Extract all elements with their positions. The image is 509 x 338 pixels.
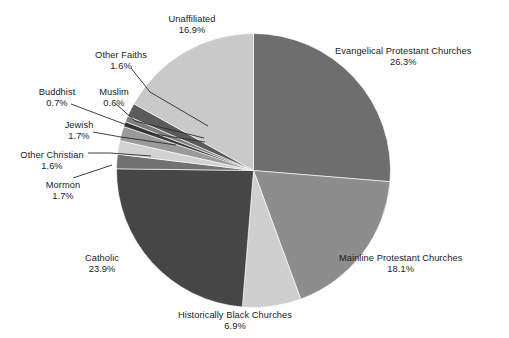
slice-label-mormon: Mormon 1.7% — [46, 180, 80, 203]
slice-label-percent-other-faiths: 1.6% — [95, 61, 147, 72]
slice-label-jewish: Jewish 1.7% — [65, 120, 94, 143]
slice-label-percent-jewish: 1.7% — [65, 131, 94, 142]
slice-label-other-faiths: Other Faiths 1.6% — [95, 50, 147, 73]
slice-label-percent-mormon: 1.7% — [46, 191, 80, 202]
slice-label-buddhist: Buddhist 0.7% — [39, 87, 76, 110]
slice-label-name-evangelical-protestant-churches: Evangelical Protestant Churches — [335, 46, 471, 57]
slice-label-percent-muslim: 0.6% — [99, 98, 129, 109]
slice-label-percent-buddhist: 0.7% — [39, 98, 76, 109]
slice-label-mainline-protestant-churches: Mainline Protestant Churches 18.1% — [339, 253, 462, 276]
slice-label-name-historically-black-churches: Historically Black Churches — [178, 310, 292, 321]
slice-label-percent-other-christian: 1.6% — [20, 161, 83, 172]
slice-label-percent-evangelical-protestant-churches: 26.3% — [335, 57, 471, 68]
pie-chart: Unaffiliated 16.9% Other Faiths 1.6% Bud… — [0, 0, 509, 338]
slice-label-evangelical-protestant-churches: Evangelical Protestant Churches 26.3% — [335, 46, 471, 69]
slice-label-name-mormon: Mormon — [46, 180, 80, 191]
slice-label-name-other-faiths: Other Faiths — [95, 50, 147, 61]
slice-label-unaffiliated: Unaffiliated 16.9% — [169, 14, 216, 37]
slice-label-percent-historically-black-churches: 6.9% — [178, 321, 292, 332]
slice-label-other-christian: Other Christian 1.6% — [20, 150, 83, 173]
slice-label-percent-catholic: 23.9% — [85, 264, 119, 275]
pie-slice-catholic[interactable] — [116, 169, 253, 307]
slice-label-name-jewish: Jewish — [65, 120, 94, 131]
slice-label-name-buddhist: Buddhist — [39, 87, 76, 98]
slice-label-name-muslim: Muslim — [99, 87, 129, 98]
slice-label-percent-unaffiliated: 16.9% — [169, 25, 216, 36]
slice-label-name-other-christian: Other Christian — [20, 150, 83, 161]
slice-label-name-unaffiliated: Unaffiliated — [169, 14, 216, 25]
slice-label-name-catholic: Catholic — [85, 253, 119, 264]
slice-label-catholic: Catholic 23.9% — [85, 253, 119, 276]
slice-label-historically-black-churches: Historically Black Churches 6.9% — [178, 310, 292, 333]
slice-label-name-mainline-protestant-churches: Mainline Protestant Churches — [339, 253, 462, 264]
slice-label-percent-mainline-protestant-churches: 18.1% — [339, 264, 462, 275]
slice-label-muslim: Muslim 0.6% — [99, 87, 129, 110]
